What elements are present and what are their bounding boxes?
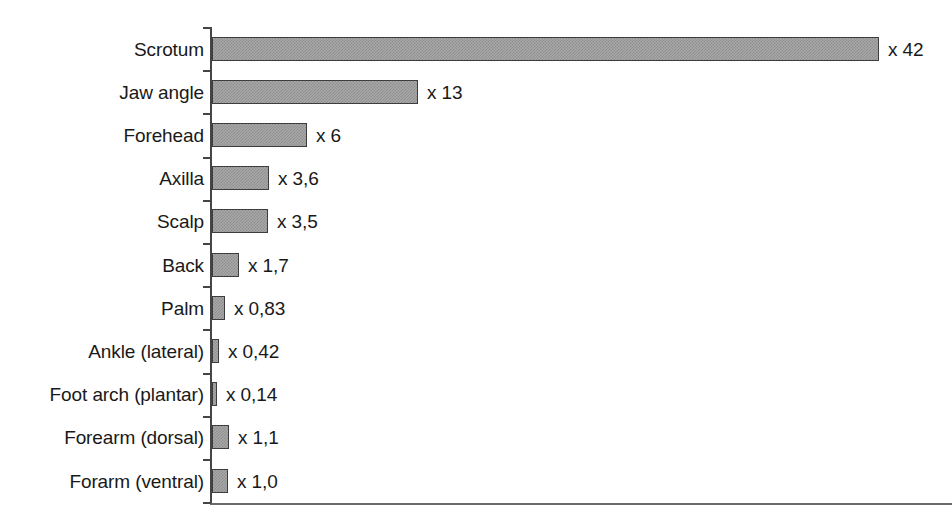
bar-row: Scrotumx 42: [0, 27, 952, 70]
bar: [212, 469, 228, 493]
category-label: Axilla: [159, 169, 204, 188]
bar-value-label: x 13: [427, 83, 463, 102]
bar-value-label: x 1,7: [248, 256, 289, 275]
bar-row: Forarm (ventral)x 1,0: [0, 459, 952, 502]
bar-value-label: x 6: [316, 126, 341, 145]
bar: [212, 166, 269, 190]
bar-value-label: x 1,1: [238, 428, 279, 447]
bar-row: Palmx 0,83: [0, 286, 952, 329]
category-label: Back: [162, 256, 204, 275]
bar: [212, 296, 225, 320]
bar-value-label: x 1,0: [237, 472, 278, 491]
category-label: Scalp: [157, 212, 204, 231]
bar: [212, 80, 418, 104]
bar-row: Ankle (lateral)x 0,42: [0, 329, 952, 372]
bar: [212, 382, 217, 406]
bar-row: Jaw anglex 13: [0, 70, 952, 113]
bar-value-label: x 0,14: [226, 385, 277, 404]
bar-value-label: x 3,5: [277, 212, 318, 231]
bar-value-label: x 3,6: [278, 169, 319, 188]
category-label: Foot arch (plantar): [50, 385, 204, 404]
category-label: Forearm (dorsal): [64, 428, 204, 447]
bar-value-label: x 42: [888, 40, 924, 59]
category-label: Palm: [161, 299, 204, 318]
category-label: Jaw angle: [119, 83, 204, 102]
bar-chart: Scrotumx 42Jaw anglex 13Foreheadx 6Axill…: [0, 0, 952, 530]
y-axis-tick: [203, 502, 211, 504]
bar: [212, 123, 307, 147]
bar-row: Backx 1,7: [0, 243, 952, 286]
x-axis-baseline: [210, 503, 952, 505]
bar-value-label: x 0,83: [234, 299, 285, 318]
bar-row: Axillax 3,6: [0, 157, 952, 200]
bar: [212, 37, 879, 61]
bar: [212, 253, 239, 277]
bar: [212, 209, 268, 233]
bar-row: Forearm (dorsal)x 1,1: [0, 416, 952, 459]
category-label: Ankle (lateral): [88, 342, 204, 361]
bar-row: Foot arch (plantar)x 0,14: [0, 373, 952, 416]
bar: [212, 339, 219, 363]
bar-value-label: x 0,42: [228, 342, 279, 361]
bar-row: Scalpx 3,5: [0, 200, 952, 243]
category-label: Scrotum: [134, 40, 204, 59]
bar: [212, 425, 229, 449]
category-label: Forehead: [123, 126, 204, 145]
bar-row: Foreheadx 6: [0, 113, 952, 156]
category-label: Forarm (ventral): [69, 472, 204, 491]
